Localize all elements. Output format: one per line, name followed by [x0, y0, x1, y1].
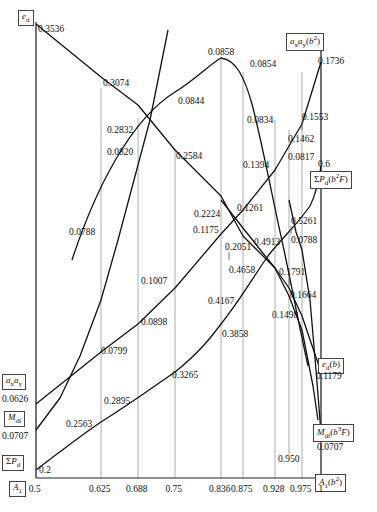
data-value-label: 0.5261: [291, 217, 317, 227]
data-value-label: 0.0817: [288, 153, 314, 163]
axis-box-ed[interactable]: ed: [18, 10, 34, 26]
axis-box-ax-ay[interactable]: axay: [2, 374, 26, 390]
data-value-label: 0.2: [39, 466, 51, 476]
x-tick-label: 0.928: [263, 484, 284, 494]
curve-ed-b: [221, 200, 318, 420]
nomogram-chart: ed axay Mdf ΣPd A1 axay(b2) ΣPd(b2F) ed(…: [0, 0, 377, 512]
data-value-label: 0.1791: [279, 268, 305, 278]
data-value-label: 0.0788: [69, 228, 95, 238]
data-value-label: 0.0820: [107, 148, 133, 158]
axis-box-ax-ay-b2[interactable]: axay(b2): [286, 33, 324, 51]
data-value-label: 0.0844: [178, 97, 204, 107]
data-value-label: 0.0626: [2, 395, 28, 405]
data-value-label: 0.2584: [176, 152, 202, 162]
x-tick-label: 0.5: [29, 484, 41, 494]
data-value-label: 0.2224: [194, 210, 220, 220]
axis-box-mdf[interactable]: Mdf: [4, 411, 25, 427]
data-value-label: 0.2051: [225, 243, 251, 253]
data-value-label: 0.3265: [172, 371, 198, 381]
data-value-label: 0.1261: [237, 204, 263, 214]
data-value-label: 0.0898: [141, 318, 167, 328]
data-value-label: 0.0834: [247, 116, 273, 126]
data-value-label: 0.2563: [66, 420, 92, 430]
data-value-label: 0.0858: [208, 48, 234, 58]
axis-box-sum-pd[interactable]: ΣPd: [2, 455, 24, 471]
data-value-label: 0.1462: [288, 135, 314, 145]
axis-box-sum-pd-b2f[interactable]: ΣPd(b2F): [310, 171, 352, 189]
data-value-label: 0.3074: [103, 79, 129, 89]
x-tick-label: 1: [319, 484, 324, 494]
x-tick-label: 0.625: [89, 484, 110, 494]
data-value-label: 0.0799: [101, 347, 127, 357]
data-value-label: 0.4658: [229, 266, 255, 276]
data-value-label: 0.1553: [302, 113, 328, 123]
data-value-label: 0.3536: [38, 25, 64, 35]
data-value-label: 0.4913: [254, 238, 280, 248]
data-value-label: 0.4167: [208, 297, 234, 307]
data-value-label: 0.0707: [2, 432, 28, 442]
axis-box-mdf-b3f[interactable]: Mdf(b3F): [313, 424, 354, 442]
x-tick-label: 0.975: [290, 484, 311, 494]
axis-box-a1[interactable]: A1: [9, 481, 26, 497]
data-value-label: 0.1498: [272, 311, 298, 321]
data-value-label: 0.3858: [222, 330, 248, 340]
data-value-label: 0.1179: [316, 372, 342, 382]
data-value-label: 0.0788: [291, 236, 317, 246]
data-value-label: 0.1736: [318, 57, 344, 67]
data-value-label: 0.1007: [141, 277, 167, 287]
data-value-label: 0.0707: [317, 443, 343, 453]
x-tick-label: 0.836: [209, 484, 230, 494]
data-value-label: 0.1175: [193, 226, 219, 236]
x-tick-label: 0.75: [165, 484, 182, 494]
data-value-label: 0.2895: [104, 397, 130, 407]
curve-mdf: [36, 30, 168, 430]
data-value-label: 0.6: [318, 160, 330, 170]
data-value-label: 0.1664: [290, 291, 316, 301]
x-tick-label: 0.688: [126, 484, 147, 494]
data-value-label: 0.0854: [250, 60, 276, 70]
x-tick-label: 0.875: [231, 484, 252, 494]
data-value-label: 0.950: [278, 455, 299, 465]
data-value-label: 0.2832: [107, 126, 133, 136]
data-value-label: 0.1394: [243, 161, 269, 171]
